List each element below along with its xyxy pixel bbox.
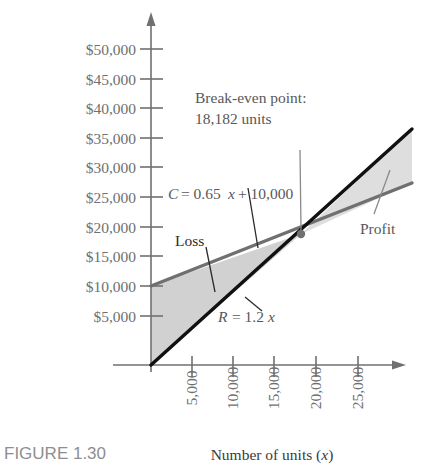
revenue-eq-x: x xyxy=(267,308,275,325)
revenue-eq-part: = 1.2 xyxy=(232,308,264,325)
y-tick-label: $50,000 xyxy=(86,41,137,58)
x-tick-label: 25,000 xyxy=(349,366,366,409)
revenue-equation-label: R = 1.2 x xyxy=(217,308,275,325)
y-tick-label: $10,000 xyxy=(86,278,137,295)
cost-equation-label: C = 0.65 x + 10,000 xyxy=(168,185,293,202)
cost-eq-part-b: + 10,000 xyxy=(238,185,293,202)
loss-label: Loss xyxy=(175,232,204,249)
y-axis-arrow xyxy=(147,12,156,26)
y-tick-label: $35,000 xyxy=(86,130,137,147)
svg-text:Number of units (x): Number of units (x) xyxy=(211,446,334,464)
cost-eq-part-a: = 0.65 xyxy=(181,185,221,202)
x-tick-label: 20,000 xyxy=(307,366,324,409)
figure-container: $50,000 $45,000 $40,000 $35,000 $30,000 … xyxy=(0,0,432,470)
y-tick-label: $25,000 xyxy=(86,189,137,206)
x-tick-label: 15,000 xyxy=(265,366,282,409)
x-axis-title: Number of units (x) xyxy=(211,446,334,464)
break-even-point-marker xyxy=(297,230,305,238)
x-axis-title-text: Number of units ( xyxy=(211,446,322,464)
break-even-chart: $50,000 $45,000 $40,000 $35,000 $30,000 … xyxy=(0,0,432,470)
profit-label: Profit xyxy=(360,220,396,237)
y-tick-label: $20,000 xyxy=(86,219,137,236)
break-even-label-line2: 18,182 units xyxy=(195,110,272,127)
x-axis-title-paren: ) xyxy=(328,446,333,464)
y-axis-tick-labels: $50,000 $45,000 $40,000 $35,000 $30,000 … xyxy=(86,41,137,325)
y-tick-label: $15,000 xyxy=(86,248,137,265)
break-even-leader-line xyxy=(300,150,301,230)
y-tick-label: $30,000 xyxy=(86,159,137,176)
y-tick-label: $40,000 xyxy=(86,100,137,117)
figure-caption: FIGURE 1.30 xyxy=(4,444,106,463)
cost-eq-variable: C xyxy=(168,185,179,202)
revenue-eq-variable: R xyxy=(217,308,228,325)
break-even-label-line1: Break-even point: xyxy=(195,89,306,106)
x-axis-tick-labels: 5,000 10,000 15,000 20,000 25,000 xyxy=(183,366,366,409)
cost-eq-x: x xyxy=(227,185,235,202)
x-tick-label: 5,000 xyxy=(183,370,200,405)
x-axis-arrow xyxy=(392,361,406,370)
x-tick-label: 10,000 xyxy=(224,366,241,409)
y-tick-label: $5,000 xyxy=(93,308,136,325)
x-axis-title-variable: x xyxy=(320,446,328,463)
y-tick-label: $45,000 xyxy=(86,71,137,88)
